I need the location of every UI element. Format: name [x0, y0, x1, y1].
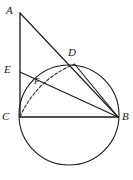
vertex-label-b: B — [122, 111, 129, 122]
geometry-figure: A E C F D B — [0, 0, 133, 180]
figure-canvas — [0, 0, 133, 180]
segment-AB — [20, 13, 118, 117]
vertex-label-f: F — [34, 77, 40, 86]
vertex-label-d: D — [68, 47, 76, 58]
vertex-label-e: E — [4, 64, 11, 75]
vertex-label-a: A — [6, 5, 13, 16]
segment-DB — [75, 64, 119, 117]
arc-C-to-D — [20, 64, 74, 116]
vertex-label-c: C — [2, 111, 9, 122]
